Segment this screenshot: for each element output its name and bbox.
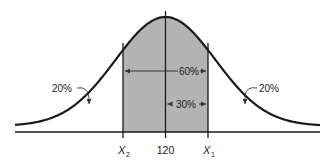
right-tail-percent-label: 20% bbox=[259, 83, 279, 94]
x2-tick-label: X 2 bbox=[117, 144, 130, 158]
normal-distribution-chart: 60% 30% 20% 20% X 2 120 X 1 bbox=[0, 0, 330, 162]
svg-text:1: 1 bbox=[211, 151, 215, 158]
half-percent-label: 30% bbox=[176, 99, 196, 110]
central-percent-label: 60% bbox=[179, 66, 199, 77]
left-tail-percent-label: 20% bbox=[52, 83, 72, 94]
x1-tick-label: X 1 bbox=[202, 144, 215, 158]
svg-text:X: X bbox=[117, 144, 126, 156]
svg-text:2: 2 bbox=[126, 151, 130, 158]
mean-tick-label: 120 bbox=[157, 144, 175, 156]
svg-text:X: X bbox=[202, 144, 211, 156]
left-tail-annotation: 20% bbox=[52, 83, 89, 104]
